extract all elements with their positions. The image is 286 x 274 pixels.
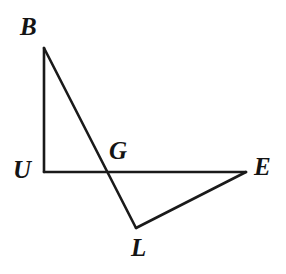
vertex-label-G: G: [109, 138, 127, 163]
geometry-diagram-svg: [0, 0, 286, 274]
vertex-label-B: B: [20, 14, 37, 39]
vertex-label-E: E: [254, 154, 271, 179]
geometry-figure: B U G E L: [0, 0, 286, 274]
vertex-label-U: U: [13, 157, 31, 182]
vertex-label-L: L: [131, 235, 146, 260]
